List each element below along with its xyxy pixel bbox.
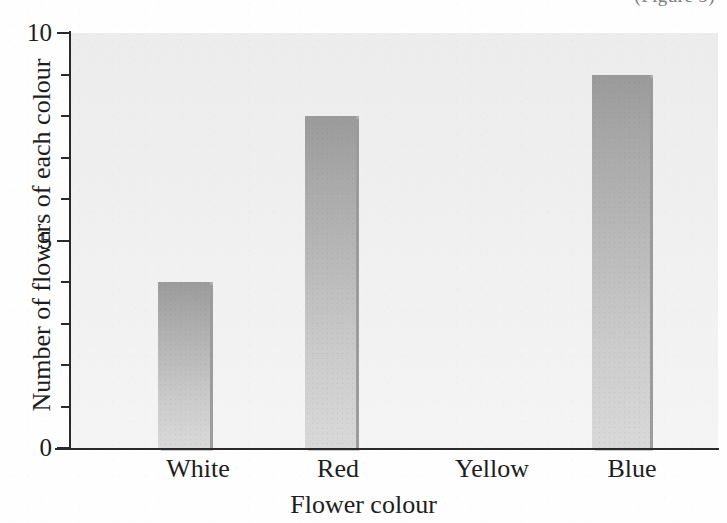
y-axis-title: Number of flowers of each colour <box>27 35 57 435</box>
x-axis-title: Flower colour <box>0 490 727 520</box>
x-axis-line <box>55 448 719 450</box>
y-tick-minor <box>61 406 70 408</box>
y-tick-major <box>57 32 70 34</box>
bar-blue <box>592 75 650 449</box>
y-tick-label: 0 <box>2 435 52 460</box>
y-tick-major <box>57 240 70 242</box>
y-tick-minor <box>61 115 70 117</box>
bar-chart-figure: (Figure 5) 0510 WhiteRedYellowBlue Flowe… <box>0 0 727 523</box>
bar-white <box>158 282 210 448</box>
y-tick-minor <box>61 198 70 200</box>
y-tick-minor <box>61 74 70 76</box>
y-tick-minor <box>61 364 70 366</box>
x-label-red: Red <box>248 455 428 484</box>
x-label-blue: Blue <box>542 455 722 484</box>
bar-red <box>305 116 356 448</box>
y-tick-minor <box>61 323 70 325</box>
y-tick-minor <box>61 281 70 283</box>
figure-caption-cutoff: (Figure 5) <box>634 0 715 7</box>
caption-strip: (Figure 5) <box>0 0 727 14</box>
y-tick-minor <box>61 157 70 159</box>
y-tick-major <box>57 447 70 449</box>
